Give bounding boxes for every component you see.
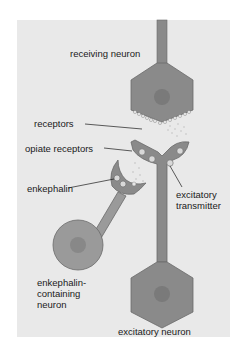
label-enkephalin: enkephalin — [27, 183, 73, 194]
nucleus-icon — [154, 286, 170, 302]
excitatory-neuron — [130, 140, 193, 328]
label-receptors: receptors — [34, 118, 74, 129]
label-excitatory-transmitter: excitatory transmitter — [176, 189, 221, 211]
label-receiving-neuron: receiving neuron — [70, 48, 140, 59]
label-opiate-receptors: opiate receptors — [25, 143, 93, 154]
receiving-neuron — [131, 20, 193, 137]
enkephalin-neuron — [53, 160, 146, 270]
nucleus-icon — [70, 237, 86, 253]
nucleus-icon — [154, 89, 170, 105]
label-enkephalin-containing-neuron: enkephalin- containing neuron — [37, 277, 86, 310]
transmitter-scatter — [167, 123, 187, 137]
label-excitatory-neuron: excitatory neuron — [118, 326, 191, 337]
